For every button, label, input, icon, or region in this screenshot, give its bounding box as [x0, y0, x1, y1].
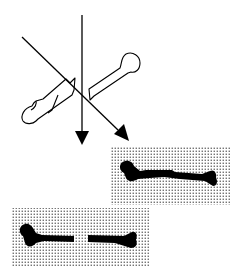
projection-image-oblique	[110, 146, 231, 205]
diagram-canvas	[0, 0, 235, 271]
oblique-projection-arrow	[22, 37, 129, 141]
arrowhead-down-icon	[75, 131, 89, 145]
bone-3d-proximal-fragment	[22, 78, 75, 124]
projection-image-vertical	[12, 208, 150, 267]
vertical-projection-arrow	[75, 15, 89, 145]
bone-3d-distal-fragment	[89, 53, 140, 100]
arrowhead-diagonal-icon	[114, 124, 129, 141]
